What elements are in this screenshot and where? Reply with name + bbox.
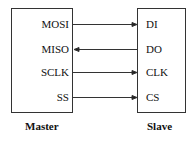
arrow-right-icon: [132, 23, 137, 27]
arrow-left-icon: [74, 48, 79, 52]
arrow-right-icon: [132, 96, 137, 100]
slave-label: Slave: [147, 120, 172, 132]
master-label: Master: [25, 120, 59, 132]
arrow-right-icon: [132, 71, 137, 75]
